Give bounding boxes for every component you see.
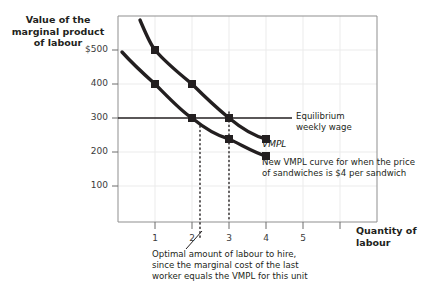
equilibrium-wage-label: Equilibrium weekly wage [296,111,352,132]
x-tick-label-1: 1 [143,233,167,243]
x-tick-label-2: 2 [180,233,204,243]
x-tick-label-4: 4 [254,233,278,243]
data-point [225,135,233,143]
figure-container: Value of the marginal product of labour … [0,0,434,300]
vmpl-curve-original [140,20,266,139]
x-tick-label-3: 3 [217,233,241,243]
data-point [188,80,196,88]
y-tick-label-300: 300 [62,112,108,122]
data-point [188,114,196,122]
data-point [151,46,159,54]
y-tick-label-200: 200 [62,146,108,156]
vmpl-curve-new [122,52,266,156]
data-point-markers-new [151,80,270,160]
y-axis-ticks [112,50,118,186]
x-axis-title: Quantity of labour [356,225,430,248]
optimal-labour-caption: Optimal amount of labour to hire, since … [152,249,308,282]
y-tick-label-400: 400 [62,78,108,88]
new-vmpl-curve-label: New VMPL curve for when the price of san… [262,157,415,178]
data-point [151,80,159,88]
data-point [225,114,233,122]
x-tick-label-5: 5 [291,233,315,243]
data-point-markers-original [151,46,270,143]
x-axis-ticks [155,222,340,229]
y-tick-label-500: $500 [62,44,108,54]
vmpl-curve-label: VMPL [262,139,286,150]
y-tick-label-100: 100 [62,180,108,190]
